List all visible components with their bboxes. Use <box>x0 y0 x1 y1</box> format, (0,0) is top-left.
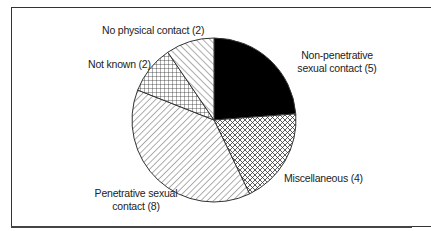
label-non-penetrative-line1: Non-penetrative <box>288 49 386 62</box>
label-penetrative-line1: Penetrative sexual <box>86 187 186 200</box>
label-no-physical-contact: No physical contact (2) <box>102 24 204 37</box>
label-non-penetrative: Non-penetrative sexual contact (5) <box>288 49 386 75</box>
pie-slice-non-penetrative-sexual-contact <box>214 38 296 120</box>
label-non-penetrative-line2: sexual contact (5) <box>288 62 386 75</box>
label-penetrative: Penetrative sexual contact (8) <box>86 187 186 213</box>
label-not-known: Not known (2) <box>88 58 151 71</box>
label-penetrative-line2: contact (8) <box>86 200 186 213</box>
label-miscellaneous: Miscellaneous (4) <box>284 172 363 185</box>
